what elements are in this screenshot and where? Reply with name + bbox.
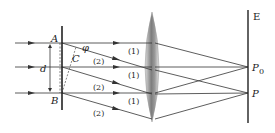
ray-label-2a: (2) xyxy=(93,57,104,66)
label-P0: P xyxy=(251,62,259,73)
label-phi: φ xyxy=(82,42,89,53)
label-E: E xyxy=(253,11,260,22)
label-P: P xyxy=(251,88,259,99)
ray-label-1c: (1) xyxy=(128,97,139,106)
label-B: B xyxy=(50,95,58,106)
label-P0-sub: 0 xyxy=(259,67,264,76)
diagram-canvas: A B C d φ E P 0 P (1) (1) (1) (2) (2) (2… xyxy=(0,0,275,133)
ray-label-1b: (1) xyxy=(128,71,139,80)
ray-label-1a: (1) xyxy=(128,47,139,56)
label-A: A xyxy=(50,33,58,44)
ray-label-2c: (2) xyxy=(93,109,104,118)
diffraction-diagram: A B C d φ E P 0 P (1) (1) (1) (2) (2) (2… xyxy=(0,0,275,133)
label-d: d xyxy=(40,63,46,74)
ray-label-2b: (2) xyxy=(93,83,104,92)
label-C: C xyxy=(72,53,80,64)
